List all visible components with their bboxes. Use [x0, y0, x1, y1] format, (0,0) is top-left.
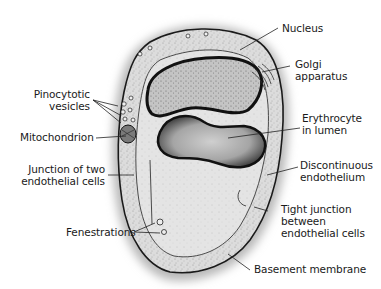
label-junction-line1: Junction of two: [14, 163, 105, 175]
label-tight-junction: Tight junction between endothelial cells: [281, 203, 365, 239]
label-pinocytotic-line2: vesicles: [30, 100, 90, 112]
label-golgi-line1: Golgi: [295, 58, 347, 70]
label-basement-text: Basement membrane: [254, 263, 366, 275]
label-discontinuous-line2: endothelium: [300, 171, 373, 183]
label-golgi-apparatus: Golgi apparatus: [295, 58, 347, 82]
label-discontinuous-endothelium: Discontinuous endothelium: [300, 159, 373, 183]
label-mitochondrion-text: Mitochondrion: [20, 131, 94, 143]
capillary-diagram: Nucleus Golgi apparatus Pinocytotic vesi…: [0, 0, 381, 289]
label-golgi-line2: apparatus: [295, 70, 347, 82]
label-junction-line2: endothelial cells: [14, 175, 105, 187]
label-junction: Junction of two endothelial cells: [14, 163, 105, 187]
label-tight-junction-line1: Tight junction: [281, 203, 365, 215]
label-erythrocyte: Erythrocyte in lumen: [302, 112, 362, 136]
label-erythrocyte-line1: Erythrocyte: [302, 112, 362, 124]
label-basement-membrane: Basement membrane: [254, 263, 366, 275]
capillary-illustration: [0, 0, 381, 289]
label-fenestrations-text: Fenestrations: [66, 226, 136, 238]
label-discontinuous-line1: Discontinuous: [300, 159, 373, 171]
label-pinocytotic-line1: Pinocytotic: [30, 88, 90, 100]
label-tight-junction-line2: between: [281, 215, 365, 227]
label-nucleus: Nucleus: [282, 22, 323, 34]
label-fenestrations: Fenestrations: [66, 226, 136, 238]
label-pinocytotic-vesicles: Pinocytotic vesicles: [30, 88, 90, 112]
label-mitochondrion: Mitochondrion: [20, 131, 94, 143]
label-nucleus-text: Nucleus: [282, 22, 323, 34]
label-erythrocyte-line2: in lumen: [302, 124, 362, 136]
label-tight-junction-line3: endothelial cells: [281, 227, 365, 239]
